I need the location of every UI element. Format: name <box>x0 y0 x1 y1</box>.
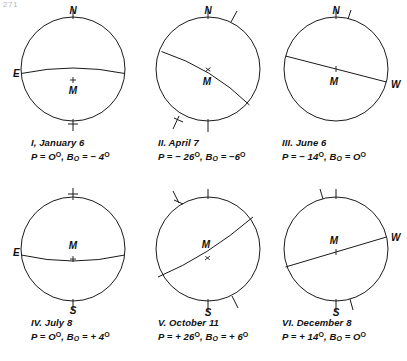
caption-values: P = OO, BO = − 4O <box>31 149 161 165</box>
panel-caption-july: IV. July 8 P = OO, BO = + 4O <box>31 317 161 345</box>
panel-october: M S V. October 11 P = + 26O, BO = + 6O <box>148 186 278 358</box>
degree-symbol: O <box>56 331 62 338</box>
degree-symbol: O <box>194 331 200 338</box>
panel-caption-october: V. October 11 P = + 26O, BO = + 6O <box>158 317 288 345</box>
degree-symbol: O <box>361 331 367 338</box>
cardinal-north-label: N <box>204 5 212 16</box>
disk-center-label: M <box>69 240 78 251</box>
caption-b-value: = −6 <box>218 151 240 162</box>
disk-december: W S M <box>278 186 407 318</box>
caption-title: III. June 6 <box>282 137 407 149</box>
rotation-axis-tick-north <box>348 10 351 19</box>
caption-title: II. April 7 <box>158 137 288 149</box>
caption-values: P = OO, BO = + 4O <box>31 329 161 345</box>
solar-equator <box>21 68 125 74</box>
cardinal-north-label: N <box>69 5 77 16</box>
disk-october: M S <box>148 186 278 318</box>
caption-b-value: = − 4 <box>79 151 104 162</box>
cardinal-west-label: W <box>391 79 402 90</box>
caption-values: P = + 14O, BO = OO <box>282 329 407 345</box>
caption-p-value: P = O <box>31 331 56 342</box>
disk-center-label: M <box>202 239 211 250</box>
rotation-axis-tick-south <box>173 116 179 129</box>
caption-p-value: P = + 14 <box>282 331 318 342</box>
panel-december: W S M VI. December 8 P = + 14O, BO = OO <box>278 186 407 358</box>
panel-june: N W M III. June 6 P = − 14O, BO = OO <box>278 6 407 178</box>
disk-center-label: M <box>330 235 339 246</box>
degree-symbol: O <box>318 151 324 158</box>
caption-values: P = − 14O, BO = OO <box>282 149 407 165</box>
caption-p-value: P = − 14 <box>282 151 318 162</box>
degree-symbol: O <box>240 151 246 158</box>
disk-center-label: M <box>69 85 78 96</box>
caption-p-value: P = + 26 <box>158 331 194 342</box>
rotation-axis-tick-north <box>320 189 323 199</box>
caption-values: P = − 26O, BO = −6O <box>158 149 288 165</box>
caption-b-value: = O <box>342 331 361 342</box>
caption-title: VI. December 8 <box>282 317 407 329</box>
rotation-axis-tick-south <box>232 296 238 308</box>
caption-p-value: P = O <box>31 151 56 162</box>
disk-center-mark <box>205 256 210 260</box>
caption-b-symbol: B <box>67 331 74 342</box>
disk-center-label: M <box>203 76 212 87</box>
cardinal-north-label: N <box>332 5 340 16</box>
degree-symbol: O <box>56 151 62 158</box>
cardinal-south-label: S <box>70 305 77 316</box>
caption-b-value: = + 6 <box>218 331 243 342</box>
panel-january: N E M I, January 6 P = OO, BO = − 4O <box>13 6 143 178</box>
degree-symbol: O <box>361 151 367 158</box>
degree-symbol: O <box>104 331 110 338</box>
panel-caption-december: VI. December 8 P = + 14O, BO = OO <box>282 317 407 345</box>
caption-title: V. October 11 <box>158 317 288 329</box>
caption-title: I, January 6 <box>31 137 161 149</box>
disk-center-mark <box>70 77 76 83</box>
disk-january: N E M <box>13 6 143 138</box>
caption-title: IV. July 8 <box>31 317 161 329</box>
solar-limb <box>21 17 125 121</box>
disk-july: E S M <box>13 186 143 318</box>
degree-symbol: O <box>318 331 324 338</box>
rotation-axis-tick-south <box>350 299 353 310</box>
caption-values: P = + 26O, BO = + 6O <box>158 329 288 345</box>
rotation-axis-tick-north <box>231 11 237 22</box>
disk-center-label: M <box>330 76 339 87</box>
disk-center-mark <box>206 68 211 72</box>
rotation-axis-crossbar <box>174 118 183 122</box>
panel-caption-january: I, January 6 P = OO, BO = − 4O <box>31 137 161 165</box>
panel-caption-april: II. April 7 P = − 26O, BO = −6O <box>158 137 288 165</box>
disk-april: N M <box>148 6 278 138</box>
cardinal-west-label: W <box>391 232 402 243</box>
caption-b-symbol: B <box>67 151 74 162</box>
rotation-axis-crossbar <box>174 200 183 204</box>
caption-p-value: P = − 26 <box>158 151 194 162</box>
caption-b-value: = + 4 <box>79 331 104 342</box>
cardinal-east-label: E <box>13 247 20 258</box>
degree-symbol: O <box>104 151 110 158</box>
disk-june: N W M <box>278 6 407 138</box>
figure-root: 271 N E M I, January 6 P = OO, BO = − 4O <box>0 0 407 361</box>
degree-symbol: O <box>194 151 200 158</box>
panel-april: N M II. April 7 P = − 26O, BO = −6O <box>148 6 278 178</box>
degree-symbol: O <box>243 331 249 338</box>
panel-july: E S M IV. July 8 P = OO, BO = + 4O <box>13 186 143 358</box>
cardinal-east-label: E <box>13 68 20 79</box>
caption-b-value: = O <box>342 151 361 162</box>
panel-caption-june: III. June 6 P = − 14O, BO = OO <box>282 137 407 165</box>
